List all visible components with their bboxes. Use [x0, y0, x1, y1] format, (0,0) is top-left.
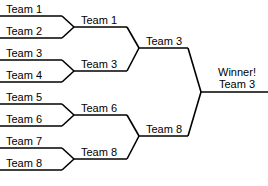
connector-r2-2b — [127, 136, 139, 159]
round2-slot-2: Team 3 — [81, 58, 117, 70]
round1-slot-7: Team 7 — [6, 135, 42, 147]
round1-slot-5: Team 5 — [6, 91, 42, 103]
round1-slot-4: Team 4 — [6, 69, 42, 81]
round2-slot-1: Team 1 — [81, 14, 117, 26]
champion-block: Winner! Team 3 — [208, 66, 266, 90]
round3-slot-2: Team 8 — [146, 123, 182, 135]
connector-r2-1a — [127, 27, 139, 48]
round3-slot-1: Team 3 — [146, 35, 182, 47]
round2-slot-4: Team 8 — [81, 146, 117, 158]
winner-title: Winner! — [208, 66, 266, 78]
round1-slot-2: Team 2 — [6, 25, 42, 37]
winner-team: Team 3 — [208, 78, 266, 90]
connector-r1-2a — [62, 60, 74, 71]
connector-r1-1a — [62, 16, 74, 27]
round1-slot-8: Team 8 — [6, 157, 42, 169]
connector-r2-1b — [127, 48, 139, 71]
connector-r2-2a — [127, 115, 139, 136]
round1-slot-1: Team 1 — [6, 3, 42, 15]
connector-r3-b — [188, 92, 201, 136]
connector-r1-4a — [62, 148, 74, 159]
connector-r3-a — [188, 48, 201, 92]
connector-r1-3a — [62, 104, 74, 115]
connector-r1-3b — [62, 115, 74, 126]
round1-slot-3: Team 3 — [6, 47, 42, 59]
connector-r1-4b — [62, 159, 74, 170]
round1-slot-6: Team 6 — [6, 113, 42, 125]
connector-r1-1b — [62, 27, 74, 38]
connector-r1-2b — [62, 71, 74, 82]
tournament-bracket: Team 1 Team 2 Team 3 Team 4 Team 5 Team … — [0, 0, 268, 186]
round2-slot-3: Team 6 — [81, 102, 117, 114]
